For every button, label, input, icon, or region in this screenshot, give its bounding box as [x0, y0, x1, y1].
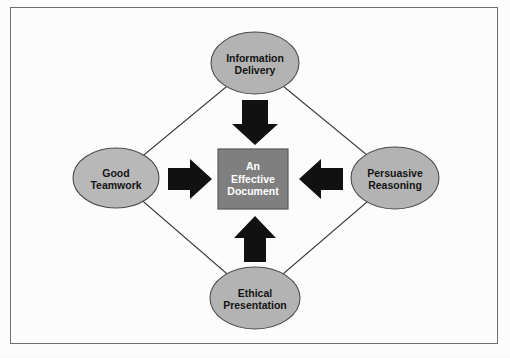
arrow-left-right-icon [168, 159, 212, 199]
diagram-canvas [0, 0, 510, 358]
diagram-page: Information Delivery Good Teamwork Persu… [0, 0, 510, 358]
node-persuasive-reasoning-shape[interactable] [351, 147, 439, 209]
node-ethical-presentation-shape[interactable] [210, 267, 300, 329]
arrow-top-down-icon [232, 100, 278, 145]
center-box-shape[interactable] [218, 149, 288, 209]
arrow-bottom-up-icon [234, 216, 276, 262]
arrow-right-left-icon [299, 159, 343, 199]
node-information-delivery-shape[interactable] [211, 32, 299, 94]
node-good-teamwork-shape[interactable] [73, 148, 159, 208]
